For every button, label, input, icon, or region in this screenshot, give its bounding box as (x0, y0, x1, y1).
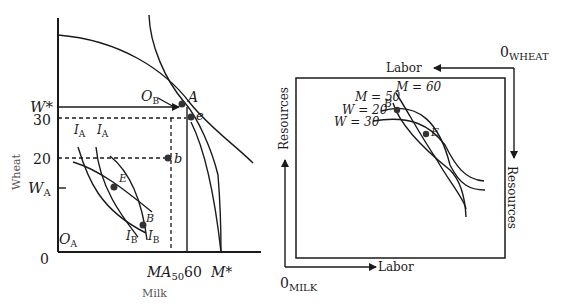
wa-label: WA (28, 179, 51, 198)
edgeworth-box-diagram: W* 30 20 WA 0 OA OB A e b E B IA IA IB I… (0, 0, 566, 304)
point-b-label: b (174, 151, 182, 166)
m60-label: M = 60 (395, 80, 442, 94)
point-E-label: E (118, 172, 127, 185)
ia-curve-1 (78, 147, 146, 233)
ib-label-1: IB (125, 229, 138, 245)
y-axis-title: Wheat (10, 154, 23, 190)
sixty-label: 60 (184, 264, 202, 280)
point-E-right (423, 131, 429, 137)
twenty-label: 20 (33, 151, 51, 167)
isoquant-m60 (396, 93, 466, 209)
point-E-right-label: E (430, 126, 439, 139)
point-b-small (165, 155, 172, 162)
isoquant-w20 (381, 108, 485, 190)
resources-right-label: Resources (505, 166, 519, 229)
zero-label: 0 (40, 251, 49, 267)
m50-label: M = 50 (354, 90, 401, 104)
point-B-right-label: B (383, 97, 392, 110)
w30-label: W = 30 (334, 115, 380, 129)
x-axis-title: Milk (142, 287, 167, 300)
isoquant-w30 (373, 119, 484, 181)
ia-curve-2 (96, 147, 138, 237)
ia-label-2: IA (96, 123, 109, 139)
thirty-label: 30 (33, 112, 51, 128)
ia-label-1: IA (73, 123, 86, 139)
ma50-label: MA50 (146, 264, 184, 282)
point-e-small (188, 114, 195, 121)
m-star-label: M* (210, 264, 232, 280)
origin-b-label: OB (141, 88, 159, 106)
community-indifference-curve (149, 15, 221, 252)
point-B-label: B (145, 212, 154, 225)
point-B-right (394, 107, 400, 113)
right-diagram: M = 60 M = 50 W = 20 W = 30 B E Labor La… (277, 44, 549, 293)
e-curve (191, 122, 221, 252)
point-E (111, 184, 118, 191)
point-a-label: A (186, 89, 198, 105)
origin-wheat-label: 0WHEAT (500, 44, 549, 62)
origin-a-label: OA (59, 231, 77, 249)
labor-bottom-label: Labor (378, 260, 414, 274)
origin-milk-label: 0MILK (280, 275, 318, 293)
resources-left-label: Resources (277, 87, 291, 150)
ib-label-2: IB (147, 229, 160, 245)
left-diagram: W* 30 20 WA 0 OA OB A e b E B IA IA IB I… (10, 15, 261, 300)
labor-top-label: Labor (386, 61, 422, 75)
point-e-label: e (196, 108, 204, 123)
edgeworth-box (296, 78, 505, 258)
point-a (179, 101, 186, 108)
